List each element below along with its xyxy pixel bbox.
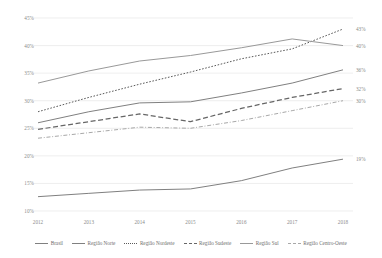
legend-swatch-line-icon: [184, 243, 197, 244]
legend-item-label: Região Norte: [88, 240, 116, 246]
legend-item-label: Região Nordeste: [140, 240, 175, 246]
legend-item[interactable]: Região Norte: [72, 240, 115, 246]
legend-item[interactable]: Região Sudeste: [184, 240, 232, 246]
legend-item-label: Brasil: [51, 240, 63, 246]
legend-item[interactable]: Brasil: [35, 240, 63, 246]
legend-item-label: Região Centro-Oeste: [303, 240, 347, 246]
legend-item[interactable]: Região Sul: [240, 240, 278, 246]
series-line-5: [38, 101, 343, 139]
series-line-3: [38, 89, 343, 130]
legend-swatch-line-icon: [288, 243, 301, 244]
chart-plot-svg: [0, 0, 382, 258]
legend-item-label: Região Sul: [256, 240, 279, 246]
legend-swatch-line-icon: [72, 243, 85, 244]
series-line-0: [38, 70, 343, 123]
legend-swatch-line-icon: [240, 243, 253, 244]
legend-item[interactable]: Região Centro-Oeste: [288, 240, 347, 246]
legend-swatch-line-icon: [124, 243, 137, 244]
legend-item-label: Região Sudeste: [199, 240, 231, 246]
series-line-1: [38, 159, 343, 196]
line-chart: 10%15%20%25%30%35%40%45% 201220132014201…: [0, 0, 382, 258]
series-line-2: [38, 29, 343, 112]
chart-legend: BrasilRegião NorteRegião NordesteRegião …: [0, 236, 382, 250]
legend-swatch-line-icon: [35, 243, 48, 244]
legend-item[interactable]: Região Nordeste: [124, 240, 174, 246]
